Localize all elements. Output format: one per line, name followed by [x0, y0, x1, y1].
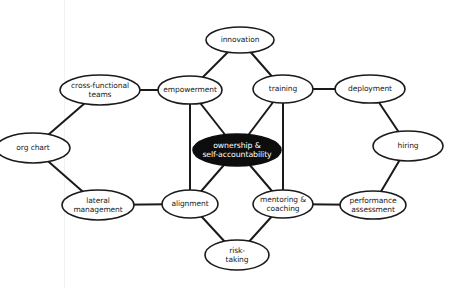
node-hiring	[373, 131, 443, 161]
node-mentoring	[253, 190, 313, 218]
node-alignment	[162, 190, 218, 218]
node-org_chart	[0, 133, 70, 163]
node-empowerment	[158, 76, 222, 104]
node-innovation	[206, 27, 274, 53]
nodes-layer	[0, 0, 472, 288]
node-risk_taking	[205, 240, 269, 270]
node-training	[253, 75, 313, 103]
node-performance	[340, 191, 406, 219]
concept-map: innovation cross-functional teams empowe…	[0, 0, 472, 288]
node-cross_functional	[60, 75, 140, 105]
node-ownership	[193, 134, 281, 166]
node-lateral_management	[62, 190, 134, 220]
node-deployment	[335, 75, 405, 103]
